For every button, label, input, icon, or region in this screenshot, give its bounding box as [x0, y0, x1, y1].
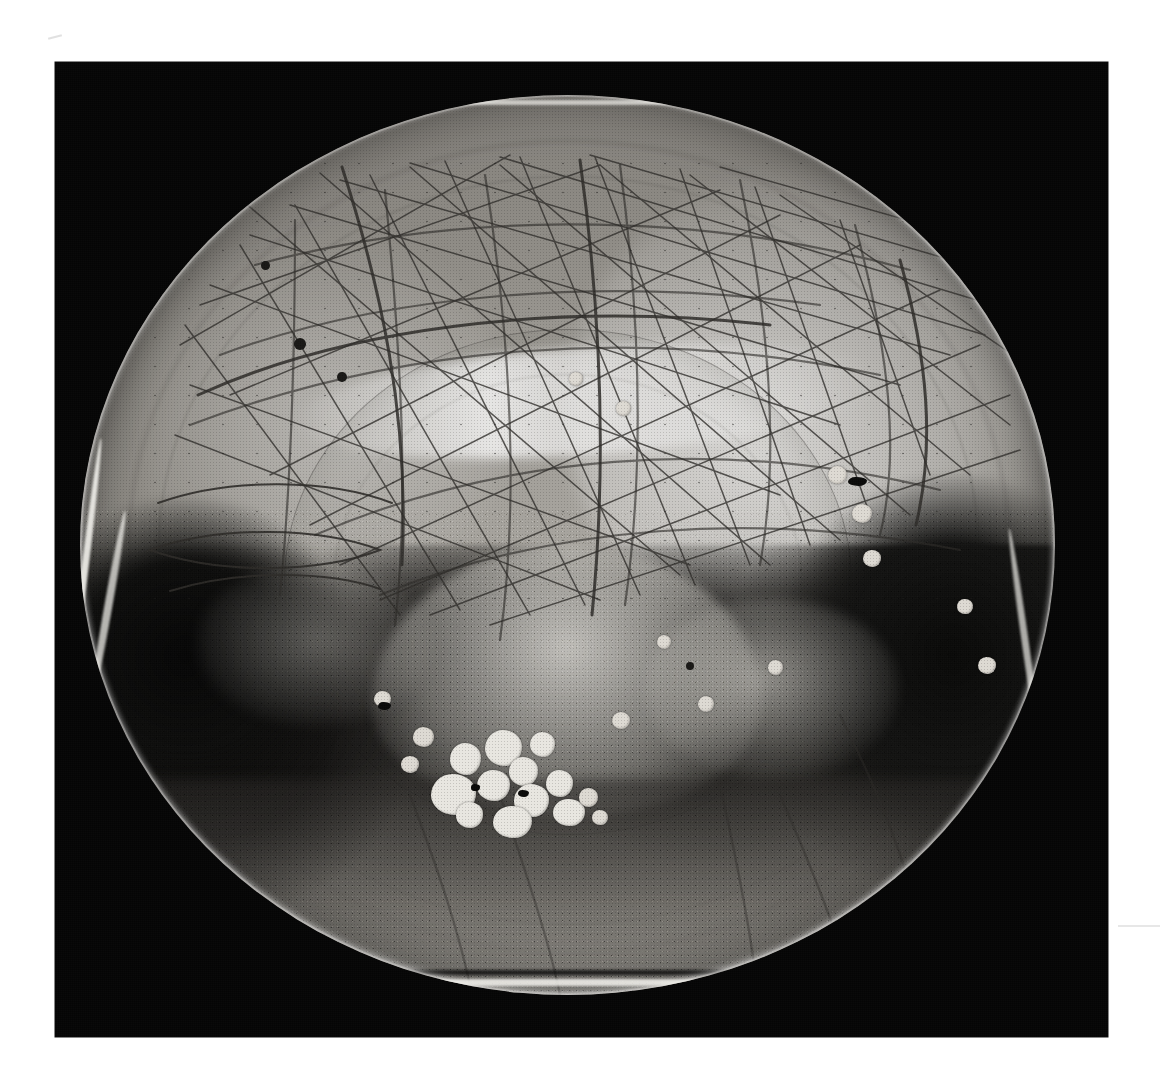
- ring-outer: [158, 176, 979, 925]
- inclusion-small: [957, 599, 973, 614]
- inclusion-small: [401, 756, 419, 773]
- inclusion-small: [616, 401, 632, 416]
- inclusion: [509, 757, 538, 786]
- dark-chip: [518, 790, 529, 797]
- dark-glaze-pool-left: [80, 491, 431, 851]
- photograph-page: [0, 0, 1160, 1073]
- glaze-granulation-texture: [80, 509, 1055, 995]
- dark-spot: [261, 261, 270, 270]
- glaze-lobe-center: [372, 545, 762, 815]
- highlight-band: [291, 327, 882, 476]
- scratch-craze-network: [80, 95, 1055, 995]
- dark-chip: [471, 784, 480, 790]
- inclusion-small: [768, 660, 784, 675]
- inclusion: [493, 806, 532, 838]
- bowl-container: [80, 95, 1055, 995]
- inclusion-small: [612, 712, 631, 729]
- highlight-upper-right: [567, 167, 1055, 653]
- rim-dark-outline: [138, 970, 996, 975]
- inclusion: [477, 770, 510, 801]
- ring-outer-foot: [128, 140, 1010, 954]
- inclusion-small: [569, 372, 583, 386]
- dark-glaze-pool-right: [704, 473, 1055, 887]
- ceramic-bowl: [80, 95, 1055, 995]
- inclusion: [450, 743, 481, 775]
- inclusion-small: [413, 727, 434, 747]
- inclusion: [530, 732, 555, 757]
- inclusion: [485, 730, 522, 766]
- ring-central-well: [284, 329, 852, 835]
- photographic-plate: [55, 62, 1108, 1037]
- rim-highlight-right: [1016, 223, 1055, 543]
- inclusion-small: [579, 788, 599, 807]
- rim-highlight-left-inner: [87, 510, 129, 706]
- dark-glaze-pool: [80, 545, 1055, 995]
- glaze-lobe-center-left: [197, 563, 431, 725]
- inclusion: [553, 799, 584, 826]
- rim-highlight-top: [294, 100, 840, 105]
- lower-rim-glaze-fade: [119, 779, 1016, 995]
- inclusion: [431, 774, 476, 815]
- margin-smudge-right: [1118, 925, 1160, 927]
- inclusion-small: [978, 657, 996, 674]
- inclusion-cluster: [80, 95, 1055, 995]
- inclusion-small: [863, 550, 881, 567]
- inclusion-small: [828, 466, 847, 484]
- dark-spot: [337, 372, 347, 382]
- inclusion-small: [698, 696, 715, 712]
- rim-highlight-ring: [80, 95, 1055, 995]
- inclusion: [456, 802, 483, 827]
- dark-spot: [686, 662, 694, 670]
- ring-central-well-inner: [333, 374, 803, 799]
- rim-highlight-right-inner: [1006, 528, 1045, 761]
- inclusion-small: [592, 810, 608, 825]
- inclusion-small: [657, 635, 672, 649]
- highlight-upper-left: [119, 221, 509, 617]
- inclusion: [546, 770, 573, 797]
- inclusion-small: [852, 504, 872, 524]
- dark-chip: [378, 702, 391, 710]
- rim-highlight-left: [80, 438, 105, 707]
- glaze-lobe-center-right: [645, 599, 899, 779]
- dark-spot: [294, 338, 306, 350]
- inclusion-small: [374, 691, 392, 707]
- inclusion: [514, 784, 549, 816]
- glaze-speck-field: [138, 149, 996, 617]
- margin-smudge-top-left: [48, 34, 62, 39]
- dark-chip: [848, 477, 868, 486]
- film-grain: [80, 95, 1055, 995]
- rim-highlight-bottom: [255, 979, 860, 986]
